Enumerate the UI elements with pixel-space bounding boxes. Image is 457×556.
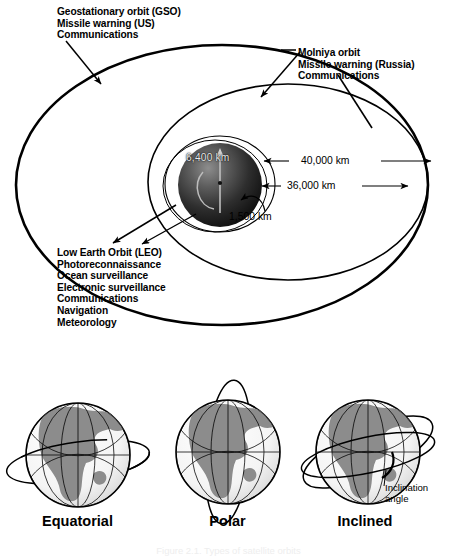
globe-label-inclined: Inclined xyxy=(300,513,430,529)
gso-altitude-label: 36,000 km xyxy=(287,180,336,191)
leo-callout-line-b xyxy=(142,214,196,244)
gso-callout-label: Geostationary orbit (GSO) Missile warnin… xyxy=(57,6,181,41)
molniya-callout-label: Molniya orbit Missile warning (Russia) C… xyxy=(298,47,414,82)
gso-callout-line xyxy=(66,41,101,84)
leo-altitude-label: 1,500 km xyxy=(229,211,272,222)
leo-callout-line-a xyxy=(113,205,176,243)
globe-label-polar: Polar xyxy=(155,513,300,529)
earth-radius-label: 6,400 km xyxy=(186,152,230,163)
globe-equatorial xyxy=(4,403,152,507)
molniya-apogee-label: 40,000 km xyxy=(301,155,350,166)
figure-root: Geostationary orbit (GSO) Missile warnin… xyxy=(0,0,457,556)
molniya-callout-line xyxy=(261,52,300,97)
earth-center-dot xyxy=(218,181,222,185)
globe-label-equatorial: Equatorial xyxy=(0,513,155,529)
figure-caption: Figure 2.1. Types of satellite orbits xyxy=(0,545,457,556)
leo-callout-label: Low Earth Orbit (LEO) Photoreconnaissanc… xyxy=(57,247,166,328)
globe-polar xyxy=(176,378,280,525)
inclination-angle-label: Inclination angle xyxy=(385,482,428,504)
